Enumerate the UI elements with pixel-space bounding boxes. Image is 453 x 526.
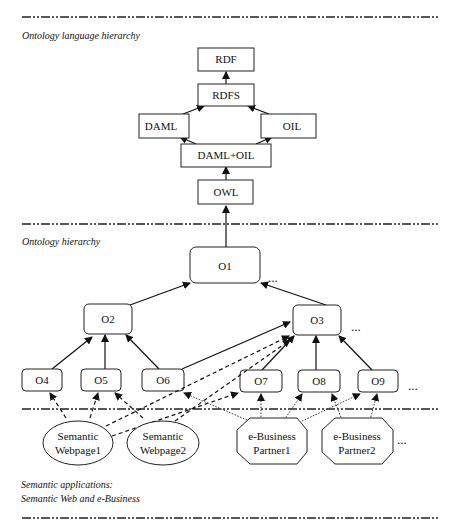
node-rdfs: RDFS — [198, 84, 254, 106]
section-label-applications-2: Semantic Web and e-Business — [21, 493, 140, 504]
ontology-diagram: Ontology language hierarchy Ontology hie… — [0, 0, 453, 526]
node-oil: OIL — [261, 114, 316, 138]
svg-text:O9: O9 — [371, 375, 385, 387]
node-daml: DAML — [139, 114, 189, 138]
app-semantic-webpage1: Semantic Webpage1 — [43, 421, 113, 465]
svg-text:DAML: DAML — [145, 120, 178, 132]
node-owl: OWL — [198, 180, 253, 204]
svg-text:OIL: OIL — [283, 120, 302, 132]
svg-text:Webpage2: Webpage2 — [140, 444, 186, 456]
svg-text:e-Business: e-Business — [248, 430, 296, 442]
node-o2: O2 — [84, 304, 132, 334]
ellipsis-o9: ... — [408, 378, 418, 393]
svg-text:O2: O2 — [101, 313, 114, 325]
svg-text:O6: O6 — [156, 374, 170, 386]
ellipsis-o3: ... — [351, 319, 361, 334]
svg-text:Semantic: Semantic — [58, 430, 99, 442]
svg-text:O7: O7 — [254, 375, 268, 387]
svg-text:Partner2: Partner2 — [338, 444, 375, 456]
section-label-language: Ontology language hierarchy — [22, 30, 141, 41]
node-o8: O8 — [298, 370, 340, 392]
node-o9: O9 — [358, 370, 398, 392]
node-daml-oil: DAML+OIL — [181, 144, 271, 167]
node-o6: O6 — [142, 369, 184, 391]
svg-text:O1: O1 — [218, 260, 231, 272]
node-o7: O7 — [240, 370, 282, 392]
node-o4: O4 — [22, 369, 62, 391]
svg-text:Partner1: Partner1 — [253, 444, 290, 456]
node-o5: O5 — [81, 369, 121, 391]
svg-text:OWL: OWL — [213, 186, 238, 198]
app-semantic-webpage2: Semantic Webpage2 — [127, 421, 199, 465]
svg-text:O4: O4 — [35, 374, 49, 386]
svg-text:O5: O5 — [94, 374, 108, 386]
svg-text:Webpage1: Webpage1 — [55, 444, 101, 456]
svg-text:O8: O8 — [312, 375, 326, 387]
ellipsis-partners: ... — [397, 432, 407, 447]
svg-text:Semantic: Semantic — [143, 430, 184, 442]
node-rdf: RDF — [198, 48, 254, 71]
section-label-applications-1: Semantic applications: — [21, 479, 113, 490]
svg-text:RDF: RDF — [215, 53, 236, 65]
app-ebusiness-partner1: e-Business Partner1 — [237, 418, 307, 464]
section-label-ontology: Ontology hierarchy — [22, 236, 101, 247]
svg-text:DAML+OIL: DAML+OIL — [198, 149, 255, 161]
svg-text:O3: O3 — [310, 314, 324, 326]
app-ebusiness-partner2: e-Business Partner2 — [322, 418, 393, 464]
ellipsis-o1: ... — [268, 270, 278, 285]
node-o3: O3 — [293, 305, 341, 335]
node-o1: O1 — [190, 247, 260, 283]
svg-text:e-Business: e-Business — [333, 430, 381, 442]
svg-text:RDFS: RDFS — [212, 89, 240, 101]
